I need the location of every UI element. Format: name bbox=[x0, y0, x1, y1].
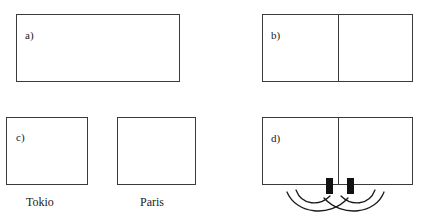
cable-bundle-icon bbox=[0, 0, 421, 221]
figure-canvas: a) b) c) Tokio Paris d) bbox=[0, 0, 421, 221]
cable-1 bbox=[296, 190, 330, 203]
cable-3 bbox=[341, 190, 375, 203]
